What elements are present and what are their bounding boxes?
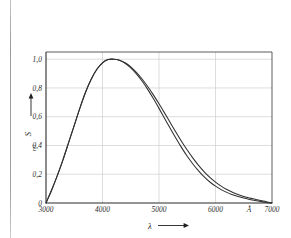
x-axis-unit-label: Å	[246, 205, 252, 214]
y-tick-label-1: 0,2	[32, 170, 42, 179]
x-tick-labels: 30004000500060007000	[37, 205, 279, 214]
spectral-sensitivity-figure: 00,20,40,60,81,0 30004000500060007000 S …	[0, 0, 291, 238]
y-axis-label: S	[23, 131, 33, 136]
chart-canvas: 00,20,40,60,81,0 30004000500060007000 S …	[0, 0, 291, 238]
x-tick-label-2: 5000	[151, 205, 166, 214]
x-tick-label-0: 3000	[37, 205, 53, 214]
y-tick-labels: 00,20,40,60,81,0	[32, 55, 42, 208]
y-tick-label-5: 1,0	[32, 55, 42, 64]
x-axis-title-group: λ	[147, 221, 189, 231]
x-tick-label-1: 4000	[95, 205, 110, 214]
y-tick-label-4: 0,8	[32, 84, 42, 93]
vertical-gridlines	[103, 52, 216, 203]
y-axis-label-subscript: rel	[31, 145, 37, 151]
x-tick-label-3: 6000	[208, 205, 223, 214]
x-axis-arrow-head-icon	[184, 223, 189, 228]
x-tick-label-4: 7000	[264, 205, 279, 214]
x-axis-label: λ	[147, 221, 152, 231]
y-tick-label-3: 0,6	[32, 112, 42, 121]
y-axis-arrow-head-icon	[29, 93, 34, 98]
